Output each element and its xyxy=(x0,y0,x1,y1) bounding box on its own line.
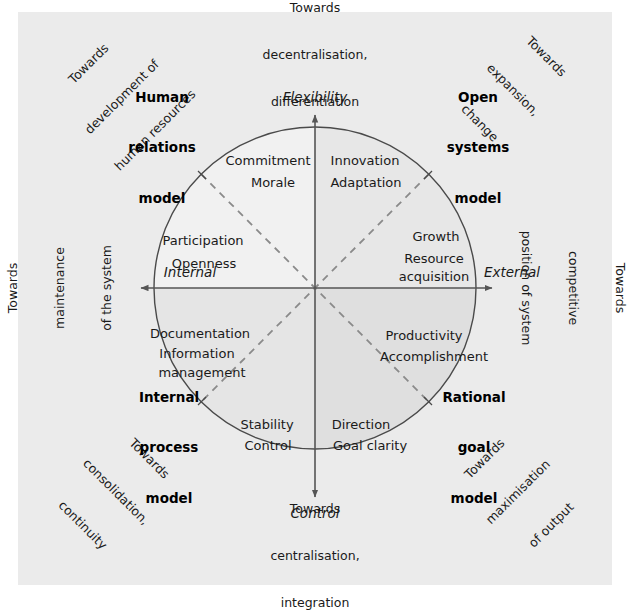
inner-label-productivity: Productivity xyxy=(385,328,462,344)
model-os-line3: model xyxy=(447,190,510,207)
model-ip-line3: model xyxy=(139,490,199,507)
model-ip-line1: Internal xyxy=(139,389,199,406)
inner-label-commitment: Commitment xyxy=(225,153,310,169)
model-os-line1: Open xyxy=(447,89,510,106)
inner-label-documentation: Documentation xyxy=(150,326,250,342)
inner-label-goal-clarity: Goal clarity xyxy=(333,438,407,454)
caption-tr-line1: Towards xyxy=(517,27,576,86)
model-rg-line1: Rational xyxy=(442,389,505,406)
caption-right-line1: Towards xyxy=(612,231,628,346)
inner-label-morale: Morale xyxy=(251,175,295,191)
model-hr-line3: model xyxy=(128,190,196,207)
caption-top: Towards decentralisation, differentiatio… xyxy=(263,0,368,141)
model-ip-line2: process xyxy=(139,440,199,457)
axis-label-flexibility: Flexibility xyxy=(283,89,348,106)
inner-label-acquisition: acquisition xyxy=(399,269,470,285)
inner-label-adaptation: Adaptation xyxy=(330,175,401,191)
inner-label-resource: Resource xyxy=(404,251,464,267)
caption-right-line2: competitive xyxy=(565,231,581,346)
caption-bottom-line2: centralisation, xyxy=(270,548,359,564)
model-label-rational-goal: Rational goal model xyxy=(442,355,505,541)
caption-bottom-line1: Towards xyxy=(270,501,359,517)
inner-label-openness: Openness xyxy=(172,256,237,272)
caption-right: Towards competitive position of system xyxy=(487,231,629,346)
model-label-open-systems: Open systems model xyxy=(447,55,510,241)
caption-right-line3: position of system xyxy=(518,231,534,346)
model-hr-line2: relations xyxy=(128,140,196,157)
caption-left: Towards maintenance of the system xyxy=(0,245,146,331)
inner-label-participation: Participation xyxy=(162,233,243,249)
inner-label-accomplishment: Accomplishment xyxy=(380,349,488,365)
model-os-line2: systems xyxy=(447,140,510,157)
inner-label-innovation: Innovation xyxy=(331,153,400,169)
model-rg-line2: goal xyxy=(442,440,505,457)
inner-label-direction: Direction xyxy=(332,417,391,433)
inner-label-stability: Stability xyxy=(240,417,293,433)
inner-label-control: Control xyxy=(245,438,292,454)
inner-label-management: management xyxy=(158,365,245,381)
caption-br-line3: of output xyxy=(516,490,587,561)
caption-left-line1: Towards xyxy=(5,245,21,331)
caption-top-line1: Towards xyxy=(263,0,368,16)
model-rg-line3: model xyxy=(442,490,505,507)
caption-bottom-line3: integration xyxy=(270,595,359,611)
caption-left-line2: maintenance xyxy=(52,245,68,331)
caption-top-line2: decentralisation, xyxy=(263,47,368,63)
inner-label-information: Information xyxy=(159,346,234,362)
caption-left-line3: of the system xyxy=(99,245,115,331)
caption-bottom: Towards centralisation, integration xyxy=(270,470,359,614)
caption-bl-line3: continuity xyxy=(47,489,120,562)
inner-label-growth: Growth xyxy=(412,229,459,245)
model-hr-line1: Human xyxy=(128,89,196,106)
model-label-internal-process: Internal process model xyxy=(139,355,199,541)
model-label-human-relations: Human relations model xyxy=(128,55,196,241)
